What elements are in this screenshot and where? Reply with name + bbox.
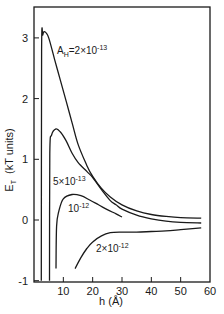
x-axis-title: h (Å): [99, 295, 123, 307]
label-curve-2e-13: AH=2×10-13: [57, 44, 107, 58]
y-axis-title: ET(kT units): [3, 128, 17, 191]
x-axis-ticks: 102030405060: [57, 277, 216, 297]
y-tick-label: 1: [22, 153, 28, 165]
y-tick-label: 0: [22, 214, 28, 226]
x-tick-label: 20: [87, 285, 99, 297]
x-tick-label: 10: [57, 285, 69, 297]
label-curve-5e-13: 5×10-13: [53, 175, 86, 187]
x-tick-label: 60: [204, 285, 216, 297]
label-curve-1e-12: 10-12: [68, 202, 89, 214]
x-tick-label: 50: [175, 285, 187, 297]
y-axis-ticks: -10123: [18, 32, 39, 287]
y-tick-label: 2: [22, 93, 28, 105]
y-tick-label: 3: [22, 32, 28, 44]
energy-vs-separation-chart: -10123 102030405060 AH=2×10-13 5×10-13 1…: [0, 0, 224, 314]
curve-series-3: [75, 228, 201, 269]
x-tick-label: 40: [145, 285, 157, 297]
label-curve-2e-12: 2×10-12: [96, 242, 129, 254]
y-tick-label: -1: [18, 275, 28, 287]
